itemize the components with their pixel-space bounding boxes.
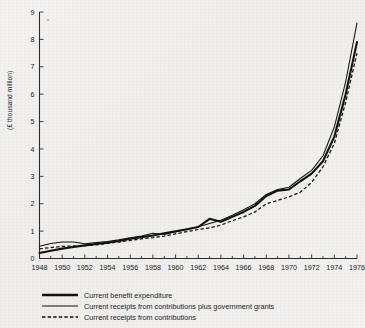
x-tick-label: 1956 xyxy=(122,263,138,272)
x-tick-label: 1964 xyxy=(213,263,229,272)
y-tick-label: 2 xyxy=(31,199,35,208)
legend-label-benefit-expenditure: Current benefit expenditure xyxy=(84,291,172,300)
y-tick-label: 1 xyxy=(31,227,35,236)
x-tick-label: 1972 xyxy=(304,263,320,272)
x-tick-label: 1948 xyxy=(32,263,48,272)
x-tick-label: 1962 xyxy=(190,263,206,272)
x-tick-label: 1970 xyxy=(281,263,297,272)
x-axis-tick-labels: 1948195019521954195619581960196219641966… xyxy=(32,263,365,272)
y-tick-label: 7 xyxy=(31,62,35,71)
series-line-contributions xyxy=(40,53,358,249)
legend-label-contributions-plus-grants: Current receipts from contributions plus… xyxy=(84,302,275,311)
y-axis-ticks xyxy=(40,12,44,259)
x-tick-label: 1954 xyxy=(100,263,116,272)
x-tick-label: 1974 xyxy=(326,263,342,272)
x-tick-label: 1960 xyxy=(168,263,184,272)
line-chart: (£ thousand million) 0123456789 19481950… xyxy=(0,0,365,328)
x-tick-label: 1976 xyxy=(349,263,365,272)
y-axis-tick-labels: 0123456789 xyxy=(31,8,35,264)
print-speck xyxy=(47,19,49,21)
y-tick-label: 8 xyxy=(31,35,35,44)
series-line-benefit-expenditure xyxy=(40,42,358,253)
y-tick-label: 9 xyxy=(31,8,35,17)
y-axis-label: (£ thousand million) xyxy=(6,71,14,130)
x-tick-label: 1952 xyxy=(77,263,93,272)
y-tick-label: 6 xyxy=(31,90,35,99)
series-line-contributions-plus-grants xyxy=(40,23,358,246)
y-tick-label: 4 xyxy=(31,145,35,154)
x-tick-label: 1966 xyxy=(236,263,252,272)
chart-legend: Current benefit expenditure Current rece… xyxy=(42,291,275,322)
y-tick-label: 5 xyxy=(31,117,35,126)
y-tick-label: 3 xyxy=(31,172,35,181)
x-tick-label: 1968 xyxy=(258,263,274,272)
legend-label-contributions: Current receipts from contributions xyxy=(84,313,196,322)
chart-figure: (£ thousand million) 0123456789 19481950… xyxy=(0,0,365,328)
x-tick-label: 1950 xyxy=(54,263,70,272)
x-tick-label: 1958 xyxy=(145,263,161,272)
x-axis-ticks xyxy=(40,255,358,259)
